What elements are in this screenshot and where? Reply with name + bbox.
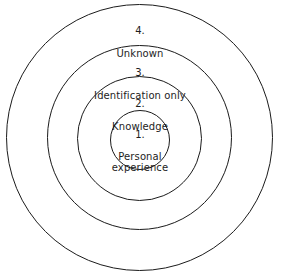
ring-number-2: 2.	[40, 98, 240, 110]
ring-number-4: 4.	[40, 25, 240, 37]
concentric-circles-diagram: 4. Unknown 3. Identification only 2. Kno…	[0, 0, 281, 278]
ring-number-1: 1.	[85, 129, 195, 140]
ring-label-personal-experience: 1. Personal experience	[85, 118, 195, 184]
ring-number-3: 3.	[40, 67, 240, 79]
ring-text-personal-experience: Personal experience	[85, 151, 195, 173]
